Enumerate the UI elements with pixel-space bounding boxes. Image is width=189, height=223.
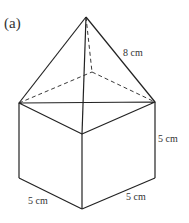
width-label: 5 cm xyxy=(126,191,146,202)
depth-label: 5 cm xyxy=(28,195,48,206)
height-label: 5 cm xyxy=(158,133,178,144)
figure-label: (a) xyxy=(4,15,21,32)
slant-edge-label: 8 cm xyxy=(123,47,143,58)
hidden-edges xyxy=(19,17,155,103)
pyramid-edges xyxy=(19,17,155,134)
cube-pyramid-diagram: (a) 8 cm 5 cm 5 cm 5 cm xyxy=(0,0,189,223)
figure: (a) 8 cm 5 cm 5 cm 5 cm xyxy=(0,0,189,223)
